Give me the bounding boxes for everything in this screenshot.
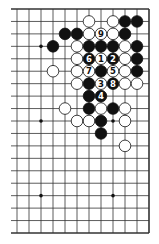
white-stone (131, 78, 143, 90)
move-number-label: 1 (98, 54, 104, 64)
black-stone (131, 41, 143, 53)
stone-icon (83, 78, 95, 90)
white-stone (119, 140, 131, 152)
black-stone (107, 41, 119, 53)
black-stone (83, 41, 95, 53)
stone-icon (95, 103, 107, 115)
stone-icon (131, 41, 143, 53)
white-stone (71, 65, 83, 77)
black-stone (71, 28, 83, 40)
white-stone (71, 115, 83, 127)
stone-icon (119, 53, 131, 65)
stone-icon (71, 28, 83, 40)
move-number-label: 7 (86, 66, 92, 76)
stone-icon (107, 41, 119, 53)
stone-icon (83, 90, 95, 102)
move-number-label: 6 (86, 54, 92, 64)
white-stone: 5 (107, 65, 119, 77)
stone-icon (119, 115, 131, 127)
star-point-icon (39, 194, 43, 198)
move-number-label: 4 (98, 91, 104, 101)
white-stone: 3 (95, 78, 107, 90)
white-stone (71, 53, 83, 65)
black-stone (131, 65, 143, 77)
stone-icon (119, 103, 131, 115)
stone-icon (71, 65, 83, 77)
stone-icon (83, 103, 95, 115)
star-point-icon (39, 119, 43, 123)
stone-icon (71, 78, 83, 90)
white-stone: 7 (83, 65, 95, 77)
white-stone (47, 65, 59, 77)
black-stone (107, 103, 119, 115)
stone-icon (71, 41, 83, 53)
black-stone (95, 41, 107, 53)
white-stone (119, 65, 131, 77)
black-stone (131, 53, 143, 65)
black-stone (83, 103, 95, 115)
move-number-label: 8 (110, 79, 116, 89)
white-stone (83, 28, 95, 40)
black-stone (95, 115, 107, 127)
move-number-label: 2 (110, 54, 116, 64)
stone-icon (71, 53, 83, 65)
stone-icon (131, 78, 143, 90)
stone-icon (119, 41, 131, 53)
white-stone (71, 41, 83, 53)
stone-icon (95, 128, 107, 140)
black-stone: 4 (95, 90, 107, 102)
black-stone (83, 90, 95, 102)
stone-icon (131, 16, 143, 28)
star-point-icon (39, 45, 43, 49)
white-stone (119, 115, 131, 127)
stone-icon (119, 65, 131, 77)
stone-icon (83, 16, 95, 28)
stone-icon (119, 78, 131, 90)
star-point-icon (111, 119, 115, 123)
stone-icon (47, 41, 59, 53)
white-stone: 1 (95, 53, 107, 65)
white-stone (119, 78, 131, 90)
white-stone (107, 28, 119, 40)
white-stone (107, 16, 119, 28)
go-board: 961275384 (0, 0, 159, 244)
black-stone (59, 28, 71, 40)
white-stone (59, 103, 71, 115)
white-stone (71, 78, 83, 90)
black-stone: 8 (107, 78, 119, 90)
stone-icon (107, 16, 119, 28)
stone-icon (119, 140, 131, 152)
black-stone (83, 78, 95, 90)
white-stone (119, 103, 131, 115)
white-stone (95, 103, 107, 115)
white-stone (83, 115, 95, 127)
black-stone (95, 65, 107, 77)
stone-icon (95, 65, 107, 77)
stone-icon (83, 41, 95, 53)
stone-icon (131, 65, 143, 77)
white-stone (119, 41, 131, 53)
stone-icon (71, 115, 83, 127)
white-stone: 9 (95, 28, 107, 40)
white-stone (119, 53, 131, 65)
stone-icon (95, 115, 107, 127)
star-point-icon (111, 194, 115, 198)
black-stone: 2 (107, 53, 119, 65)
black-stone (119, 16, 131, 28)
stone-icon (119, 28, 131, 40)
black-stone (95, 128, 107, 140)
stone-icon (83, 28, 95, 40)
move-number-label: 9 (98, 29, 104, 39)
black-stone (119, 28, 131, 40)
black-stone (131, 16, 143, 28)
stone-icon (59, 103, 71, 115)
stone-icon (59, 28, 71, 40)
stone-icon (131, 53, 143, 65)
black-stone: 6 (83, 53, 95, 65)
move-number-label: 3 (98, 79, 104, 89)
stone-icon (47, 65, 59, 77)
stone-icon (83, 115, 95, 127)
black-stone (47, 41, 59, 53)
white-stone (83, 16, 95, 28)
stone-icon (95, 41, 107, 53)
